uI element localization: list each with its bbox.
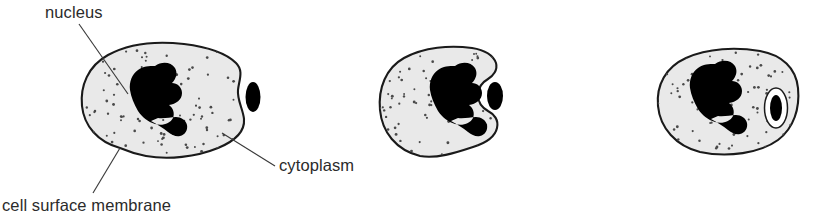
stipple-dot: [748, 118, 750, 120]
stipple-dot: [111, 141, 114, 144]
stipple-dot: [403, 93, 405, 95]
stipple-dot: [185, 143, 188, 146]
phagocytosis-diagram: nucleuscytoplasmcell surface membrane: [0, 0, 818, 216]
stipple-dot: [430, 100, 432, 102]
stipple-dot: [102, 61, 104, 63]
stipple-dot: [715, 147, 717, 149]
stipple-dot: [756, 111, 758, 113]
stipple-dot: [160, 132, 163, 135]
stipple-dot: [112, 103, 115, 106]
stipple-dot: [82, 134, 84, 136]
stipple-dot: [671, 150, 673, 152]
stipple-dot: [398, 103, 400, 105]
stipple-dot: [757, 86, 760, 89]
stipple-dot: [391, 95, 394, 98]
stipple-dot: [113, 94, 115, 96]
stipple-dot: [687, 79, 690, 82]
stipple-dot: [98, 49, 101, 52]
stipple-dot: [403, 95, 405, 97]
stipple-dot: [485, 152, 488, 155]
stipple-dot: [381, 147, 383, 149]
stipple-dot: [227, 77, 230, 80]
stipple-dot: [424, 114, 427, 117]
stipple-dot: [419, 55, 421, 57]
stipple-dot: [660, 131, 662, 133]
stipple-dot: [187, 77, 190, 80]
stipple-dot: [113, 132, 115, 134]
stipple-dot: [105, 100, 108, 103]
stipple-dot: [701, 48, 704, 51]
stipple-dot: [398, 76, 400, 78]
stipple-dot: [191, 66, 194, 69]
stage-1-bacterium-outside: [82, 43, 261, 159]
stipple-dot: [766, 89, 768, 91]
stipple-dot: [217, 135, 219, 137]
stipple-dot: [210, 106, 213, 109]
stage-2-engulfing-pseudopodia: [379, 47, 503, 157]
stipple-dot: [136, 49, 139, 52]
stipple-dot: [746, 135, 748, 137]
stipple-dot: [485, 144, 487, 146]
stipple-dot: [198, 106, 201, 109]
stipple-dot: [395, 133, 398, 136]
stipple-dot: [206, 56, 209, 59]
stipple-dot: [422, 70, 425, 73]
stipple-dot: [95, 142, 97, 144]
stipple-dot: [677, 138, 679, 140]
stipple-dot: [789, 97, 791, 99]
stipple-dot: [138, 120, 141, 123]
stipple-dot: [198, 98, 200, 100]
stipple-dot: [752, 106, 755, 109]
stipple-dot: [162, 136, 165, 139]
stipple-dot: [179, 115, 181, 117]
stipple-dot: [133, 130, 136, 133]
stipple-dot: [90, 44, 92, 46]
stipple-dot: [399, 140, 401, 142]
stipple-dot: [84, 43, 86, 45]
stipple-dot: [200, 118, 202, 120]
stipple-dot: [225, 156, 228, 159]
stipple-dot: [428, 94, 430, 96]
stipple-dot: [753, 86, 756, 89]
stipple-dot: [676, 125, 679, 128]
stipple-dot: [145, 60, 147, 62]
stipple-dot: [657, 56, 659, 58]
stipple-dot: [673, 128, 676, 131]
stipple-dot: [233, 99, 235, 101]
stipple-dot: [166, 55, 168, 57]
stipple-dot: [144, 52, 146, 54]
stipple-dot: [228, 119, 230, 121]
stipple-dot: [232, 80, 235, 83]
stipple-dot: [657, 76, 660, 79]
stipple-dot: [121, 116, 123, 118]
stipple-dot: [692, 130, 694, 132]
stipple-dot: [382, 106, 384, 108]
bacterium: [770, 95, 782, 121]
stipple-dot: [207, 74, 209, 76]
stipple-dot: [124, 144, 127, 147]
stipple-dot: [408, 68, 411, 71]
stipple-dot: [788, 57, 791, 60]
stipple-dot: [728, 147, 731, 150]
stipple-dot: [125, 51, 127, 53]
stipple-dot: [166, 152, 168, 154]
stipple-dot: [765, 131, 767, 133]
stipple-dot: [749, 65, 751, 67]
stipple-dot: [205, 126, 208, 129]
stipple-dot: [737, 79, 739, 81]
stipple-dot: [658, 53, 661, 56]
stipple-dot: [391, 97, 393, 99]
stipple-dot: [757, 142, 759, 144]
stipple-dot: [103, 52, 105, 54]
stipple-dot: [657, 139, 659, 141]
stipple-dot: [93, 50, 96, 53]
stipple-dot: [659, 72, 661, 74]
stipple-dot: [413, 88, 415, 90]
stipple-dot: [678, 95, 681, 98]
leader-line-cell_surface_membrane: [93, 148, 120, 193]
stipple-dot: [150, 127, 153, 130]
stipple-dot: [146, 56, 148, 58]
stipple-dot: [113, 68, 116, 71]
stipple-dot: [188, 68, 191, 71]
stipple-dot: [119, 151, 121, 153]
